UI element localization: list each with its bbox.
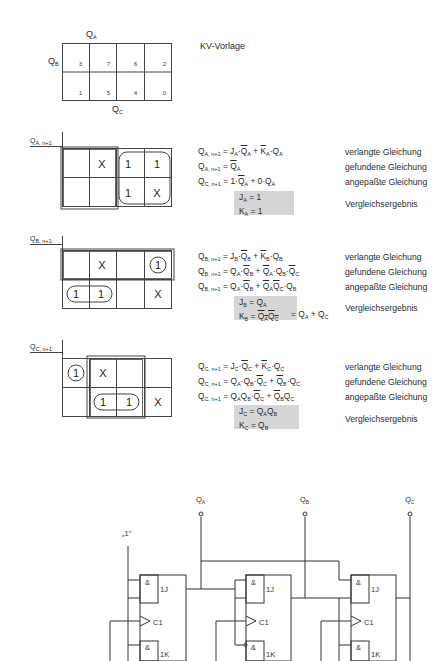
and-label: & — [251, 643, 256, 652]
k-label: 1K — [160, 650, 169, 659]
equation: QA, n+1 = JA·QA + KA·QA — [198, 145, 283, 160]
kv-cell: X — [153, 187, 161, 199]
equation: QC, n+1 = JC·QC + KC·QC — [198, 360, 284, 375]
kv-cell: 1 — [155, 259, 161, 271]
kv-map-grid: X 1 1 1 X — [60, 236, 180, 316]
kv-cell: X — [98, 259, 106, 271]
kv-cell: 3 — [79, 61, 82, 67]
kv-map-grid: 1 X 1 1 X — [60, 340, 180, 420]
kv-template-row-label: QB — [48, 56, 59, 67]
equation-desc: verlangte Gleichung — [345, 362, 421, 372]
kv-cell: 1 — [154, 158, 160, 170]
k-label: 1K — [371, 650, 380, 659]
kv-template-bottom-label: QC — [112, 104, 123, 115]
j-label: 1J — [371, 585, 379, 594]
kv-cell: X — [154, 396, 162, 408]
jk-counter-circuit: „1" QA QB QC & 1J C1 & 1K & 1J C1 & 1K &… — [0, 480, 448, 661]
j-label: 1J — [160, 585, 168, 594]
kv-cell: 1 — [125, 158, 131, 170]
equation-desc: gefundene Gleichung — [345, 267, 427, 277]
kv-map-label: QC, n+1: — [30, 343, 62, 353]
equation-desc: gefundene Gleichung — [345, 377, 427, 387]
kv-cell: 7 — [107, 61, 110, 67]
result-desc: Vergleichsergebnis — [345, 303, 418, 313]
and-label: & — [356, 578, 361, 587]
kv-cell: X — [154, 288, 162, 300]
equation: QC, n+1 = 1·QA + 0·QA — [198, 175, 275, 190]
equation-desc: verlangte Gleichung — [345, 252, 421, 262]
kv-cell: 1 — [100, 396, 106, 408]
equation: QC, n+1 = QAQB·QC + QBQC — [198, 390, 294, 405]
output-label-qb: QB — [300, 495, 310, 505]
and-label: & — [145, 643, 150, 652]
result-desc: Vergleichsergebnis — [345, 199, 418, 209]
kv-map-label: QA, n+1: — [30, 137, 62, 147]
j-label: 1J — [266, 585, 274, 594]
result-box: JB = QAKB = QAQC — [234, 296, 297, 320]
and-label: & — [251, 578, 256, 587]
result-box: JA = 1KA = 1 — [234, 191, 294, 215]
kv-template-title: KV-Vorlage — [200, 41, 245, 51]
clk-label: C1 — [153, 618, 163, 627]
equation: QA, n+1 = QA — [198, 160, 240, 175]
and-label: & — [356, 643, 361, 652]
equation: QC, n+1 = QA·QB·QC + QB·QC — [198, 375, 300, 390]
const-one-label: „1" — [122, 529, 132, 538]
kv-cell: X — [99, 367, 107, 379]
kv-template-col-label: QA — [86, 29, 97, 40]
equation-desc: angepaßte Gleichung — [345, 282, 427, 292]
kv-cell: 1 — [73, 367, 79, 379]
kv-map-grid: X 1 1 1 X — [60, 132, 180, 212]
equation: = QA + QC — [291, 308, 328, 323]
equation: QB, n+1 = QA·QB + QAQC·QB — [198, 280, 297, 295]
equation: QB, n+1 = QA·QB + QA·QB·QC — [198, 265, 299, 280]
equation: QB, n+1 = JB·QB + KB·QB — [198, 250, 283, 265]
k-label: 1K — [266, 650, 275, 659]
and-label: & — [145, 578, 150, 587]
result-box: JC = QAQBKC = QB — [234, 405, 299, 429]
clk-label: C1 — [364, 618, 374, 627]
kv-cell: X — [98, 158, 106, 170]
kv-cell: 1 — [79, 90, 82, 96]
equation-desc: angepaßte Gleichung — [345, 392, 427, 402]
equation-desc: angepaßte Gleichung — [345, 177, 427, 187]
kv-cell: 4 — [134, 90, 137, 96]
result-desc: Vergleichsergebnis — [345, 414, 418, 424]
kv-cell: 1 — [98, 288, 104, 300]
kv-cell: 6 — [134, 61, 137, 67]
equation-desc: verlangte Gleichung — [345, 147, 421, 157]
kv-cell: 1 — [126, 396, 132, 408]
kv-cell: 1 — [125, 187, 131, 199]
output-label-qc: QC — [405, 495, 415, 505]
kv-cell: 5 — [107, 90, 110, 96]
kv-map-label: QB, n+1: — [30, 235, 62, 245]
output-label-qa: QA — [196, 495, 206, 505]
kv-cell: 0 — [163, 90, 166, 96]
clk-label: C1 — [259, 618, 269, 627]
kv-cell: 2 — [163, 61, 166, 67]
kv-cell: 1 — [73, 288, 79, 300]
equation-desc: gefundene Gleichung — [345, 162, 427, 172]
